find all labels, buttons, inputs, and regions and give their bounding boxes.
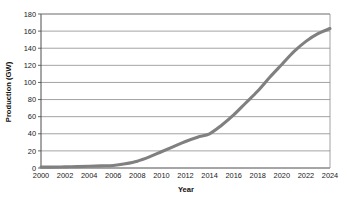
- y-tick-label: 80: [28, 95, 36, 104]
- x-axis-labels: 2000200220042006200820102012201420162018…: [33, 171, 338, 180]
- production-line-series: [41, 29, 330, 168]
- y-tick-label: 20: [28, 147, 36, 156]
- x-tick-label: 2002: [57, 171, 73, 180]
- x-tick-label: 2008: [129, 171, 145, 180]
- grid-lines: [41, 14, 330, 151]
- x-tick-label: 2024: [322, 171, 338, 180]
- x-tick-label: 2020: [274, 171, 290, 180]
- x-tick-label: 2004: [81, 171, 97, 180]
- x-tick-label: 2006: [105, 171, 121, 180]
- y-axis-title: Production (GW): [4, 61, 13, 122]
- y-tick-label: 120: [24, 61, 36, 70]
- line-chart: 020406080100120140160180 200020022004200…: [0, 0, 347, 204]
- x-tick-label: 2018: [250, 171, 266, 180]
- y-tick-label: 140: [24, 44, 36, 53]
- x-tick-label: 2010: [153, 171, 169, 180]
- y-tick-label: 160: [24, 27, 36, 36]
- chart-container: 020406080100120140160180 200020022004200…: [0, 0, 347, 204]
- plot-frame: [41, 14, 330, 168]
- x-tick-label: 2016: [225, 171, 241, 180]
- x-axis-title: Year: [178, 185, 194, 194]
- x-tick-label: 2022: [298, 171, 314, 180]
- x-tick-label: 2012: [177, 171, 193, 180]
- y-tick-label: 60: [28, 112, 36, 121]
- x-tick-label: 2014: [201, 171, 217, 180]
- y-tick-label: 180: [24, 10, 36, 19]
- y-tick-label: 40: [28, 129, 36, 138]
- x-tick-label: 2000: [33, 171, 49, 180]
- y-tick-label: 100: [24, 78, 36, 87]
- y-axis-labels: 020406080100120140160180: [24, 10, 36, 173]
